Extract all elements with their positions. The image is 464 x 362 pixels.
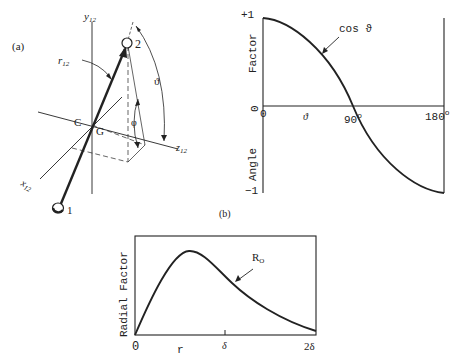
radial-curve (135, 251, 316, 335)
r12-sub: 12 (62, 60, 69, 68)
b-xtick-180-value: 180 (425, 111, 445, 123)
c-xvar-r: r (177, 345, 184, 356)
b-xvar-theta: ϑ (303, 112, 308, 122)
ro-sub: O (259, 257, 264, 265)
panel-a-label: (a) (12, 41, 24, 52)
b-xtick-90-value: 90 (344, 114, 357, 126)
particle-2 (122, 38, 132, 48)
center-c-label: C (74, 117, 81, 128)
y-axis-label: y12 (84, 11, 96, 24)
z-axis-label: z12 (176, 143, 187, 155)
cos-theta-label: cos ϑ (339, 24, 372, 35)
figure-canvas (0, 0, 464, 362)
b-xtick-180: 180o (425, 109, 450, 123)
b-ytick-plus1: +1 (241, 10, 254, 21)
particle-1-label: 1 (67, 205, 73, 216)
z-axis-sub: 12 (180, 147, 187, 155)
b-xtick-90-degree: o (357, 111, 362, 120)
center-g-label: G (96, 126, 104, 137)
r12-label: r12 (58, 55, 69, 68)
y-axis-sub: 12 (89, 16, 96, 24)
ro-label: RO (252, 252, 264, 265)
z-axis-line (38, 112, 178, 149)
phi-label: φ (131, 118, 137, 128)
b-ylabel-factor: Factor (248, 33, 259, 73)
c-xtick-2delta: 2δ (304, 341, 315, 352)
panel-b-chart (263, 18, 444, 193)
c-ylabel: Radial Factor (119, 251, 130, 337)
panel-a-diagram (38, 22, 178, 213)
panel-b-label: (b) (219, 209, 231, 219)
r12-vector (60, 49, 125, 206)
b-ytick-minus1: −1 (245, 186, 258, 197)
c-xtick-delta: δ (222, 341, 227, 351)
particle-2-label: 2 (135, 38, 141, 50)
b-xtick-0: 0 (260, 109, 267, 120)
theta-label: ϑ (154, 76, 159, 87)
c-xtick-0: 0 (132, 341, 139, 353)
b-xtick-180-degree: o (445, 108, 450, 117)
x-axis-line (40, 97, 122, 179)
b-xtick-90: 90o (344, 112, 362, 126)
b-ylabel-angle: Angle (248, 148, 259, 181)
panel-c-chart (135, 236, 316, 335)
